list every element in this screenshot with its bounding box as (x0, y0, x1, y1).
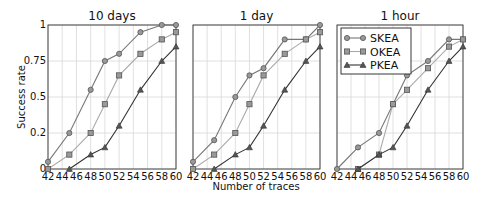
okea-square-icon (88, 130, 93, 135)
pkea-triangle-icon (317, 44, 323, 49)
skea-circle-icon (334, 166, 339, 171)
x-tick-label: 52 (257, 171, 270, 182)
chart-canvas: Success rate Number of traces 4244464850… (0, 0, 484, 201)
legend-skea-circle-icon (360, 35, 365, 40)
series-skea (45, 22, 178, 164)
legend: SKEAOKEAPKEA (341, 28, 411, 74)
okea-square-icon (138, 51, 143, 56)
okea-square-icon (45, 166, 50, 171)
skea-circle-icon (138, 30, 143, 35)
x-tick-label: 46 (215, 171, 228, 182)
y-tick-label: 1 (40, 19, 46, 30)
panel-title: 1 day (240, 9, 274, 23)
legend-skea-circle-icon (344, 35, 349, 40)
skea-circle-icon (247, 73, 252, 78)
okea-square-icon (261, 73, 266, 78)
legend-label: OKEA (370, 46, 401, 59)
x-axis-label: Number of traces (212, 181, 299, 192)
skea-circle-icon (446, 37, 451, 42)
okea-square-icon (460, 37, 465, 42)
okea-square-icon (173, 30, 178, 35)
x-tick-label: 48 (84, 171, 97, 182)
okea-square-icon (233, 130, 238, 135)
skea-circle-icon (45, 159, 50, 164)
legend-label: SKEA (370, 32, 399, 45)
skea-circle-icon (317, 22, 322, 27)
x-tick-label: 56 (429, 171, 442, 182)
x-tick-label: 50 (243, 171, 256, 182)
series-line (193, 32, 320, 169)
panel-title: 1 hour (381, 9, 420, 23)
x-tick-label: 42 (187, 171, 200, 182)
pkea-triangle-icon (232, 152, 238, 157)
series-skea (190, 22, 322, 164)
x-tick-label: 44 (345, 171, 358, 182)
okea-square-icon (212, 152, 217, 157)
pkea-triangle-icon (88, 152, 94, 157)
okea-square-icon (317, 30, 322, 35)
x-tick-label: 56 (285, 171, 298, 182)
skea-circle-icon (282, 37, 287, 42)
skea-circle-icon (159, 22, 164, 27)
x-tick-label: 54 (415, 171, 428, 182)
skea-circle-icon (67, 130, 72, 135)
x-tick-label: 56 (141, 171, 154, 182)
skea-circle-icon (190, 159, 195, 164)
figure: Success rate Number of traces 4244464850… (0, 0, 484, 201)
okea-square-icon (404, 87, 409, 92)
y-axis-label: Success rate (16, 65, 27, 129)
okea-square-icon (446, 44, 451, 49)
okea-square-icon (190, 166, 195, 171)
pkea-triangle-icon (116, 123, 122, 128)
skea-circle-icon (117, 51, 122, 56)
okea-square-icon (282, 51, 287, 56)
x-tick-label: 60 (457, 171, 470, 182)
skea-circle-icon (376, 130, 381, 135)
legend-okea-square-icon (344, 49, 349, 54)
skea-circle-icon (355, 145, 360, 150)
x-tick-label: 58 (300, 171, 313, 182)
skea-circle-icon (88, 87, 93, 92)
skea-circle-icon (102, 58, 107, 63)
x-tick-label: 54 (271, 171, 284, 182)
skea-circle-icon (261, 66, 266, 71)
y-tick-label: 0.5 (30, 91, 46, 102)
okea-square-icon (102, 102, 107, 107)
series-line (48, 25, 176, 162)
x-tick-label: 46 (359, 171, 372, 182)
x-tick-label: 50 (387, 171, 400, 182)
series-okea (190, 30, 322, 172)
x-tick-label: 54 (127, 171, 140, 182)
x-tick-label: 58 (155, 171, 168, 182)
x-tick-label: 46 (70, 171, 83, 182)
x-tick-label: 44 (56, 171, 69, 182)
y-tick-label: 0.2 (30, 127, 46, 138)
pkea-triangle-icon (173, 44, 179, 49)
x-tick-label: 52 (401, 171, 414, 182)
okea-square-icon (247, 102, 252, 107)
y-tick-label: 0.75 (24, 55, 46, 66)
okea-square-icon (67, 152, 72, 157)
okea-square-icon (159, 37, 164, 42)
x-tick-label: 60 (314, 171, 327, 182)
okea-square-icon (117, 73, 122, 78)
chart-panel-1: 4244464850525456586000.20.50.75110 days (24, 9, 183, 182)
legend-label: PKEA (370, 59, 399, 72)
skea-circle-icon (425, 58, 430, 63)
x-tick-label: 48 (229, 171, 242, 182)
pkea-triangle-icon (404, 123, 410, 128)
x-tick-label: 44 (201, 171, 214, 182)
okea-square-icon (303, 37, 308, 42)
series-okea (45, 30, 178, 172)
x-tick-label: 52 (113, 171, 126, 182)
okea-square-icon (425, 66, 430, 71)
okea-square-icon (390, 102, 395, 107)
pkea-triangle-icon (460, 44, 466, 49)
x-tick-label: 50 (99, 171, 112, 182)
pkea-triangle-icon (246, 144, 252, 149)
legend-okea-square-icon (360, 49, 365, 54)
panel-title: 10 days (88, 9, 135, 23)
x-tick-label: 42 (331, 171, 344, 182)
x-tick-label: 58 (443, 171, 456, 182)
chart-panel-2: 424446485052545658601 day (187, 9, 327, 182)
